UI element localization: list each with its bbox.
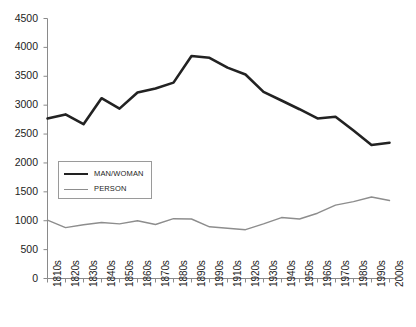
chart-legend: MAN/WOMAN PERSON bbox=[58, 161, 152, 199]
y-tick-label: 2500 bbox=[2, 127, 38, 139]
x-tick-label: 1860s bbox=[142, 260, 153, 287]
y-tick-label: 2000 bbox=[2, 156, 38, 168]
legend-item-person: PERSON bbox=[64, 183, 127, 195]
x-tick-label: 1930s bbox=[268, 260, 279, 287]
x-tick-label: 1920s bbox=[250, 260, 261, 287]
series-line-person bbox=[48, 197, 390, 230]
line-chart: 050010001500200025003000350040004500 181… bbox=[0, 0, 416, 327]
x-tick-label: 2000s bbox=[394, 260, 405, 287]
x-tick-label: 1910s bbox=[232, 260, 243, 287]
y-tick-label: 4000 bbox=[2, 40, 38, 52]
y-tick-label: 1000 bbox=[2, 214, 38, 226]
y-tick-label: 4500 bbox=[2, 12, 38, 24]
y-tick-label: 0 bbox=[2, 272, 38, 284]
x-tick-label: 1810s bbox=[52, 260, 63, 287]
legend-label-man-woman: MAN/WOMAN bbox=[94, 170, 144, 178]
x-tick-label: 1940s bbox=[286, 260, 297, 287]
y-tick-label: 1500 bbox=[2, 185, 38, 197]
y-tick-label: 3000 bbox=[2, 98, 38, 110]
y-tick-label: 3500 bbox=[2, 69, 38, 81]
x-tick-label: 1990s bbox=[376, 260, 387, 287]
x-tick-label: 1850s bbox=[124, 260, 135, 287]
legend-label-person: PERSON bbox=[94, 185, 127, 193]
x-tick-label: 1960s bbox=[322, 260, 333, 287]
axis-group bbox=[44, 19, 398, 283]
x-tick-label: 1820s bbox=[70, 260, 81, 287]
x-tick-label: 1870s bbox=[160, 260, 171, 287]
x-tick-label: 1840s bbox=[106, 260, 117, 287]
legend-swatch-person bbox=[64, 189, 88, 190]
x-tick-label: 1970s bbox=[340, 260, 351, 287]
x-tick-label: 1880s bbox=[178, 260, 189, 287]
x-tick-label: 1950s bbox=[304, 260, 315, 287]
legend-swatch-man-woman bbox=[64, 173, 88, 175]
y-tick-label: 500 bbox=[2, 243, 38, 255]
series-group bbox=[48, 56, 390, 230]
x-tick-label: 1890s bbox=[196, 260, 207, 287]
x-tick-label: 1830s bbox=[88, 260, 99, 287]
x-tick-label: 1980s bbox=[358, 260, 369, 287]
legend-item-man-woman: MAN/WOMAN bbox=[64, 168, 144, 180]
series-line-man-woman bbox=[48, 56, 390, 145]
x-tick-label: 1990s bbox=[214, 260, 225, 287]
